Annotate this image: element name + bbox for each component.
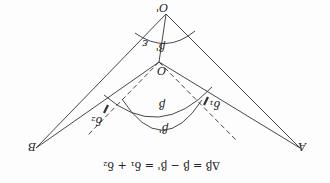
delta2-mark	[104, 105, 108, 113]
label-beta-prime-bottom: β'	[159, 122, 169, 135]
label-epsilon: ε	[142, 37, 148, 50]
arc-beta	[104, 87, 212, 117]
line-o-a	[159, 62, 300, 148]
label-beta-prime-top: β'	[156, 40, 166, 53]
label-beta: β	[159, 98, 166, 111]
label-delta1: δ₁	[209, 98, 220, 111]
label-delta2: δ₂	[91, 114, 102, 127]
label-o-prime: O'	[156, 1, 168, 14]
label-b: B	[28, 140, 37, 153]
diagram: O' O A B β β' β' ε δ₂ δ₁ Δβ = β − β' = δ…	[0, 0, 330, 183]
line-oprime-a	[166, 14, 300, 148]
line-o-b	[36, 62, 159, 148]
dashed-line-right	[159, 62, 236, 140]
equation: Δβ = β − β' = δ₁ + δ₂	[103, 159, 220, 172]
label-o: O	[157, 64, 166, 77]
label-a: A	[298, 140, 307, 153]
delta1-mark	[204, 97, 208, 105]
diagram-svg: O' O A B β β' β' ε δ₂ δ₁ Δβ = β − β' = δ…	[0, 0, 330, 183]
line-o-oprime	[159, 14, 166, 62]
